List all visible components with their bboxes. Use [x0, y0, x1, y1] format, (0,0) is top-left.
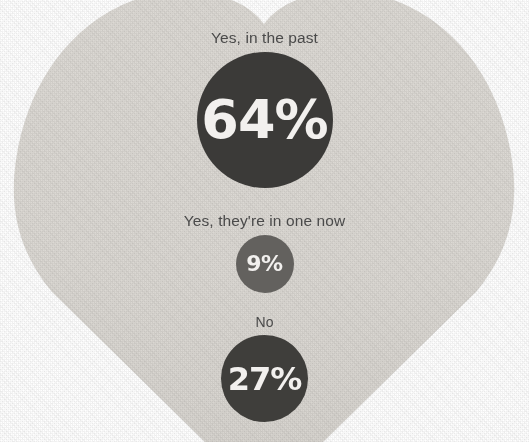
bubble-value-yes-in-the-past: 64% [197, 93, 333, 147]
bubble-label-no: No [0, 315, 529, 329]
data-group-no: No 27% [0, 315, 529, 422]
bubble-label-yes-in-the-past: Yes, in the past [0, 30, 529, 46]
bubble-value-yes-in-one-now: 9% [236, 253, 294, 275]
bubble-yes-in-the-past: 64% [197, 52, 333, 188]
bubble-value-no: 27% [221, 363, 308, 395]
data-group-yes-in-one-now: Yes, they're in one now 9% [0, 213, 529, 293]
bubble-yes-in-one-now: 9% [236, 235, 294, 293]
bubble-no: 27% [221, 335, 308, 422]
heart-bubble-infographic: Yes, in the past 64% Yes, they're in one… [0, 0, 529, 442]
bubble-label-yes-in-one-now: Yes, they're in one now [0, 213, 529, 229]
data-group-yes-in-the-past: Yes, in the past 64% [0, 30, 529, 188]
